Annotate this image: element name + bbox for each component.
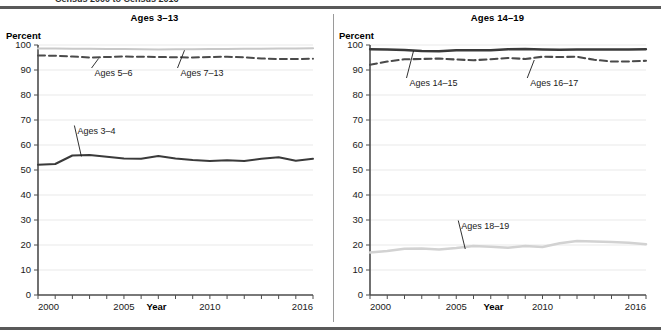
y-tick-label: 10 — [352, 264, 363, 275]
series-line-ages-5-6 — [38, 56, 313, 60]
y-tick-label: 0 — [358, 289, 363, 300]
y-tick-label: 50 — [352, 164, 363, 175]
series-annotation-label: Ages 14–15 — [410, 78, 458, 88]
chart-panel-ages-14-19: Ages 14–19 Percent 010203040506070809010… — [334, 9, 661, 327]
y-tick-label: 30 — [20, 214, 31, 225]
y-tick-label: 50 — [20, 164, 31, 175]
y-tick-label: 20 — [20, 239, 31, 250]
y-tick-label: 90 — [20, 64, 31, 75]
y-tick-label: 80 — [20, 89, 31, 100]
y-tick-label: 90 — [352, 64, 363, 75]
y-tick-label: 10 — [20, 264, 31, 275]
series-line-ages-14-15 — [370, 49, 646, 51]
series-annotation-label: Ages 3–4 — [77, 126, 115, 136]
y-tick-label: 70 — [20, 114, 31, 125]
y-tick-label: 100 — [15, 39, 31, 50]
y-tick-label: 40 — [20, 189, 31, 200]
y-tick-label: 60 — [352, 139, 363, 150]
y-tick-label: 100 — [347, 39, 363, 50]
y-tick-label: 30 — [352, 214, 363, 225]
y-tick-label: 40 — [352, 189, 363, 200]
y-tick-label: 0 — [26, 289, 31, 300]
series-line-ages-7-13 — [38, 48, 313, 49]
series-annotation-label: Ages 5–6 — [95, 68, 133, 78]
chart-panel-ages-3-13: Ages 3–13 Percent 0102030405060708090100… — [0, 9, 333, 327]
plot-area-left: 01020304050607080901002000200520102016Ag… — [0, 9, 333, 327]
plot-area-right: 01020304050607080901002000200520102016Ag… — [334, 9, 661, 327]
cut-off-header-text: Census 2000 to Census 2016 — [55, 0, 179, 4]
series-annotation-label: Ages 18–19 — [461, 221, 509, 231]
y-tick-label: 60 — [20, 139, 31, 150]
x-axis-title-right: Year — [334, 301, 661, 312]
series-line-ages-18-19 — [370, 241, 646, 253]
x-axis-title-left: Year — [0, 301, 333, 312]
y-tick-label: 70 — [352, 114, 363, 125]
y-tick-label: 20 — [352, 239, 363, 250]
series-annotation-label: Ages 16–17 — [530, 78, 578, 88]
y-tick-label: 80 — [352, 89, 363, 100]
series-annotation-label: Ages 7–13 — [181, 68, 224, 78]
bottom-rule — [0, 327, 661, 330]
series-line-ages-3-4 — [38, 155, 313, 165]
